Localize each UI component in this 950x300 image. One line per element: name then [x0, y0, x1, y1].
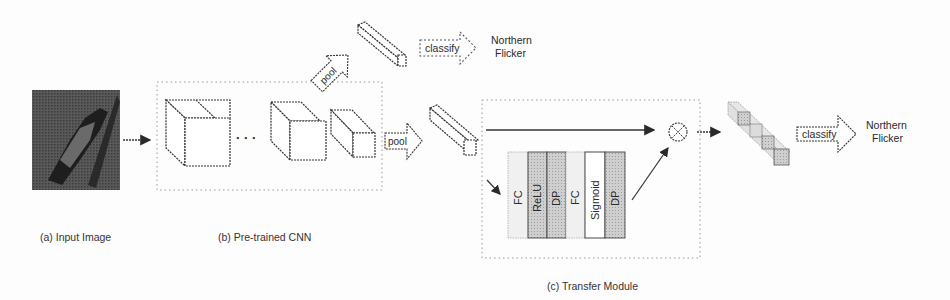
- svg-text:FC: FC: [569, 190, 581, 205]
- conv-block-3: [331, 110, 375, 157]
- svg-text:DP: DP: [609, 191, 621, 206]
- svg-text:classify: classify: [425, 42, 460, 54]
- svg-text:FC: FC: [512, 190, 524, 205]
- prediction-main-line2: Flicker: [872, 132, 903, 144]
- feature-vector-top: [358, 22, 406, 66]
- caption-input-image: (a) Input Image: [40, 231, 111, 243]
- prediction-main-line1: Northern: [866, 119, 907, 131]
- elementwise-multiply-icon: [669, 123, 687, 141]
- conv-block-1: [166, 100, 230, 166]
- layer-stack: FC ReLU DP FC Sigmoid DP: [508, 152, 625, 238]
- svg-text:classify: classify: [802, 128, 837, 140]
- conv-block-2: [271, 102, 326, 160]
- ellipsis: · · ·: [236, 130, 256, 145]
- arrow-layers-to-multiply: [632, 148, 668, 200]
- classify-arrow-main: classify: [797, 116, 856, 152]
- input-image: [32, 90, 120, 190]
- caption-pretrained-cnn: (b) Pre-trained CNN: [218, 231, 311, 243]
- diagram-canvas: (a) Input Image · · · (b) Pre-trained CN…: [0, 0, 950, 300]
- feature-vector-main: [430, 105, 478, 155]
- svg-text:Sigmoid: Sigmoid: [589, 180, 601, 220]
- classify-arrow-top: classify: [420, 32, 476, 64]
- svg-text:pool: pool: [388, 136, 407, 147]
- pool-arrow-main: pool: [385, 123, 422, 159]
- pool-arrow-top: pool: [306, 44, 358, 96]
- svg-text:DP: DP: [550, 191, 562, 206]
- caption-transfer-module: (c) Transfer Module: [547, 280, 638, 292]
- prediction-top-line2: Flicker: [495, 47, 526, 59]
- prediction-top-line1: Northern: [491, 34, 532, 46]
- svg-text:ReLU: ReLU: [531, 184, 543, 212]
- feature-vector-output: [728, 102, 790, 165]
- arrow-into-layers: [487, 180, 500, 194]
